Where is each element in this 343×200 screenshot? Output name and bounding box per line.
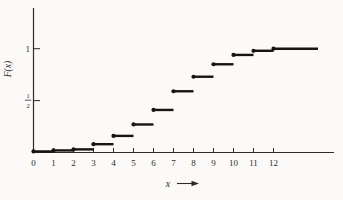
y-tick-label-half-numerator: 1 [26,92,29,99]
x-tick-label: 12 [269,158,278,168]
x-tick-label: 11 [249,158,258,168]
x-tick-label: 1 [51,158,56,168]
x-tick-label: 9 [211,158,216,168]
step-dot [111,134,115,138]
step-dot [171,89,175,93]
y-axis-label: F(x) [3,61,14,78]
x-axis-label: x [165,178,171,189]
x-tick-label: 4 [111,158,116,168]
y-tick-label-half-denominator: 2 [26,102,29,109]
step-dot [131,122,135,126]
y-tick-label-one: 1 [26,44,31,54]
cdf-figure: 0123456789101112112F(x)x [0,0,343,200]
step-dot [91,142,95,146]
step-dot [151,108,155,112]
x-tick-label: 3 [91,158,96,168]
step-dot [71,147,75,151]
step-dot [191,75,195,79]
x-tick-label: 0 [31,158,36,168]
step-dot [231,53,235,57]
x-tick-label: 6 [151,158,156,168]
cdf-step-chart: 0123456789101112112F(x)x [0,0,343,200]
step-dot [271,47,275,51]
x-axis-arrow-icon [192,181,200,187]
x-tick-label: 7 [171,158,176,168]
x-tick-label: 10 [229,158,239,168]
step-dot [31,149,35,153]
step-dot [251,49,255,53]
step-dot [51,148,55,152]
x-tick-label: 5 [131,158,136,168]
step-dot [211,62,215,66]
x-tick-label: 8 [191,158,196,168]
x-tick-label: 2 [71,158,76,168]
